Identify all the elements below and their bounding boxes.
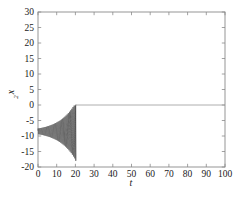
y-tick-label: -10 bbox=[21, 131, 34, 141]
x-tick-label: 90 bbox=[202, 169, 212, 179]
y-axis-label: x bbox=[5, 89, 16, 95]
x-tick-label: 30 bbox=[89, 169, 99, 179]
x-tick-label: 40 bbox=[108, 169, 118, 179]
x-tick-label: 100 bbox=[218, 169, 233, 179]
y-tick-label: 25 bbox=[25, 23, 35, 33]
y-tick-label: -15 bbox=[21, 147, 34, 157]
x-tick-label: 20 bbox=[71, 169, 81, 179]
x-tick-label: 70 bbox=[164, 169, 174, 179]
y-tick-label: 10 bbox=[25, 69, 35, 79]
y-tick-label: 30 bbox=[25, 7, 35, 17]
x-tick-label: 60 bbox=[145, 169, 155, 179]
y-tick-label: 5 bbox=[29, 85, 34, 95]
x-tick-label: 0 bbox=[36, 169, 41, 179]
x-tick-label: 10 bbox=[52, 169, 62, 179]
x-tick-label: 80 bbox=[183, 169, 193, 179]
y-tick-label: 0 bbox=[29, 100, 34, 110]
y-tick-label: -5 bbox=[26, 116, 34, 126]
x-axis-label: t bbox=[130, 177, 133, 188]
figure-container: 0102030405060708090100 -20-15-10-5051015… bbox=[0, 0, 245, 198]
y-axis-label-subscript: 2 bbox=[12, 95, 20, 99]
y-tick-label: 15 bbox=[25, 54, 35, 64]
y-tick-label: -20 bbox=[21, 162, 34, 172]
line-chart: 0102030405060708090100 -20-15-10-5051015… bbox=[0, 0, 245, 198]
y-tick-label: 20 bbox=[25, 38, 35, 48]
